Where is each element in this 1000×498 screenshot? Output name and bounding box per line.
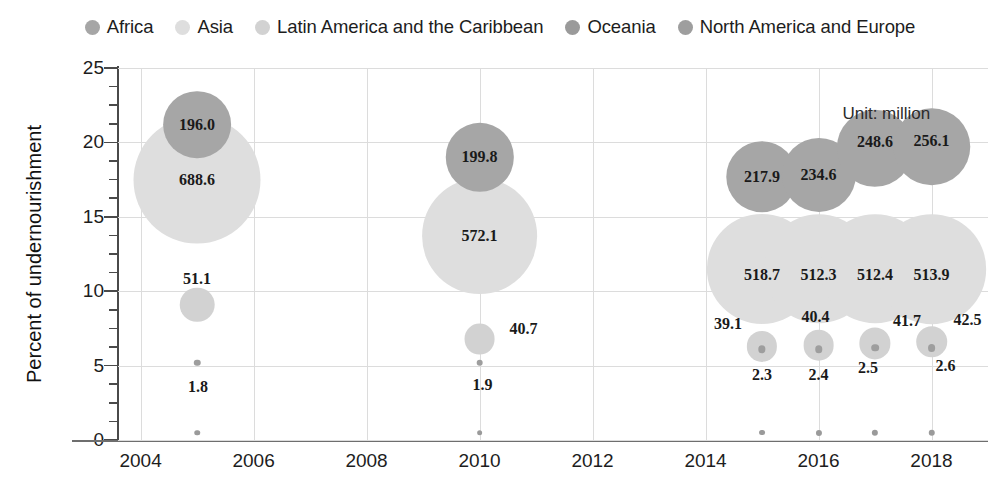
y-tick-major [104, 67, 118, 69]
x-tick-label: 2014 [684, 450, 726, 472]
bubble-asia-2018[interactable] [877, 214, 987, 324]
bubble-label-north-america-and-europe-2017: 2.5 [858, 359, 878, 377]
bubble-label-latin-america-and-the-caribbean-2010: 40.7 [510, 320, 538, 338]
y-tick-label: 25 [4, 57, 104, 79]
gridline-vertical [141, 68, 142, 440]
bubble-oceania-2015[interactable] [759, 430, 765, 436]
x-tick-label: 2012 [571, 450, 613, 472]
legend-swatch-icon [255, 20, 270, 35]
bubble-africa-2010[interactable] [445, 123, 513, 191]
bubble-asia-2010[interactable] [422, 178, 538, 294]
gridline-vertical [593, 68, 594, 440]
legend-item-label: Africa [107, 16, 154, 38]
bubble-oceania-2010[interactable] [477, 430, 483, 436]
y-tick-label: 5 [4, 355, 104, 377]
legend-item-label: North America and Europe [700, 16, 916, 38]
bubble-north-america-and-europe-2010[interactable] [476, 359, 483, 366]
x-tick-label: 2004 [119, 450, 161, 472]
gridline-horizontal [118, 366, 988, 367]
y-tick-label: 20 [4, 131, 104, 153]
bubble-oceania-2005[interactable] [194, 430, 200, 436]
legend-item-asia[interactable]: Asia [175, 16, 233, 38]
y-tick-major [104, 365, 118, 367]
y-tick-major [104, 216, 118, 218]
y-tick-major [104, 290, 118, 292]
legend-item-label: Asia [197, 16, 233, 38]
x-tick-label: 2016 [797, 450, 839, 472]
bubble-label-north-america-and-europe-2015: 2.3 [752, 366, 772, 384]
legend-swatch-icon [678, 20, 693, 35]
gridline-horizontal [118, 440, 988, 441]
legend-item-label: Latin America and the Caribbean [277, 16, 543, 38]
x-tick-label: 2018 [910, 450, 952, 472]
bubble-oceania-2018[interactable] [928, 429, 934, 435]
legend-item-oceania[interactable]: Oceania [565, 16, 655, 38]
bubble-north-america-and-europe-2018[interactable] [928, 344, 936, 352]
bubble-oceania-2017[interactable] [872, 429, 878, 435]
plot-area: 196.0199.8217.9234.6248.6256.1688.6572.1… [118, 68, 988, 440]
bubble-africa-2005[interactable] [163, 91, 231, 159]
unit-annotation: Unit: million [842, 104, 930, 124]
y-tick-label: 10 [4, 280, 104, 302]
legend-swatch-icon [175, 20, 190, 35]
gridline-horizontal [118, 68, 988, 69]
legend-item-north-america-and-europe[interactable]: North America and Europe [678, 16, 916, 38]
y-tick-major [104, 142, 118, 144]
y-axis-ticks: 2520151050 [0, 0, 104, 498]
chart-legend: AfricaAsiaLatin America and the Caribbea… [0, 10, 1000, 44]
gridline-vertical [367, 68, 368, 440]
gridline-vertical [254, 68, 255, 440]
bubble-latin-america-and-the-caribbean-2005[interactable] [180, 287, 215, 322]
gridline-vertical [706, 68, 707, 440]
x-tick-label: 2006 [232, 450, 274, 472]
bubble-label-north-america-and-europe-2010: 1.9 [473, 376, 493, 394]
bubble-oceania-2016[interactable] [815, 429, 821, 435]
x-tick-label: 2010 [458, 450, 500, 472]
bubble-north-america-and-europe-2017[interactable] [871, 344, 879, 352]
bubble-latin-america-and-the-caribbean-2018[interactable] [916, 326, 948, 358]
bubble-label-latin-america-and-the-caribbean-2005: 51.1 [183, 270, 211, 288]
y-tick-label: 15 [4, 206, 104, 228]
legend-item-label: Oceania [587, 16, 655, 38]
legend-item-latin-america-and-the-caribbean[interactable]: Latin America and the Caribbean [255, 16, 543, 38]
bubble-chart: AfricaAsiaLatin America and the Caribbea… [0, 0, 1000, 498]
legend-swatch-icon [565, 20, 580, 35]
x-tick-label: 2008 [345, 450, 387, 472]
bubble-label-north-america-and-europe-2005: 1.8 [188, 378, 208, 396]
bubble-latin-america-and-the-caribbean-2010[interactable] [464, 323, 495, 354]
